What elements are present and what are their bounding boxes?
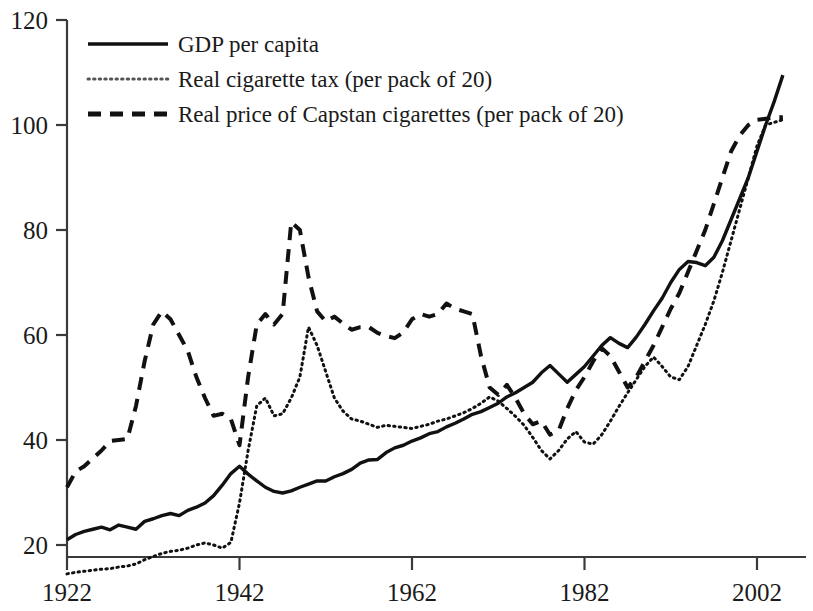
y-tick-label: 60 — [23, 322, 48, 349]
x-axis-ticks: 19221942196219822002 — [42, 557, 782, 606]
y-axis-ticks: 20406080100120 — [11, 7, 68, 559]
x-tick-label: 1962 — [387, 579, 437, 606]
legend-label: Real cigarette tax (per pack of 20) — [178, 67, 492, 92]
legend-label: Real price of Capstan cigarettes (per pa… — [178, 102, 624, 127]
x-tick-label: 2002 — [732, 579, 782, 606]
line-chart: 20406080100120 19221942196219822002 GDP … — [0, 0, 813, 611]
series-line-dotted — [67, 120, 783, 574]
x-tick-label: 1922 — [42, 579, 92, 606]
x-tick-label: 1982 — [560, 579, 610, 606]
x-tick-label: 1942 — [215, 579, 265, 606]
y-tick-label: 80 — [23, 217, 48, 244]
chart-legend: GDP per capitaReal cigarette tax (per pa… — [88, 32, 624, 127]
series-line-solid — [67, 75, 783, 540]
data-series-group — [67, 75, 783, 574]
legend-label: GDP per capita — [178, 32, 319, 57]
chart-container: 20406080100120 19221942196219822002 GDP … — [0, 0, 813, 611]
y-tick-label: 120 — [11, 7, 49, 34]
axes — [67, 20, 806, 557]
series-line-dashed — [67, 117, 783, 487]
y-tick-label: 20 — [23, 532, 48, 559]
y-tick-label: 40 — [23, 427, 48, 454]
y-tick-label: 100 — [11, 112, 49, 139]
